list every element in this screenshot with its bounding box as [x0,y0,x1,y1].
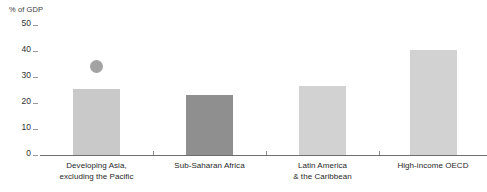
x-axis-category-label-line: excluding the Pacific [40,172,153,183]
x-axis-baseline [40,155,487,156]
category-divider [153,151,154,155]
y-axis-tick-mark [33,155,38,156]
data-point-marker [90,60,103,73]
bar [186,95,233,155]
bar [73,89,120,155]
y-axis-tick: 10 [0,122,40,132]
x-axis-category-label: High-income OECD [379,161,487,172]
x-axis-category-label-line: High-income OECD [379,161,487,172]
y-axis-tick: 0 [0,148,40,158]
y-axis-tick-mark [33,77,38,78]
x-axis-category-label: Developing Asia,excluding the Pacific [40,161,153,182]
bar [410,50,457,155]
x-axis-category-label-line: & the Caribbean [266,172,379,183]
y-axis-tick-label: 40 [22,44,31,54]
x-axis-category-label-line: Sub-Saharan Africa [153,161,266,172]
y-axis-tick-label: 50 [22,18,31,28]
y-axis-tick: 50 [0,18,40,28]
y-axis-tick-mark [33,25,38,26]
x-axis-category-label-line: Latin America [266,161,379,172]
x-axis-category-label-line: Developing Asia, [40,161,153,172]
y-axis-tick-label: 20 [22,96,31,106]
y-axis-tick-label: 30 [22,70,31,80]
bar-chart: % of GDP 50403020100 Developing Asia,exc… [0,0,487,192]
y-axis-tick: 20 [0,96,40,106]
category-divider [266,151,267,155]
y-axis-unit-label: % of GDP [9,5,43,14]
y-axis-tick-mark [33,103,38,104]
y-axis-tick-mark [33,129,38,130]
y-axis-tick-label: 0 [26,148,31,158]
category-divider [379,151,380,155]
x-axis-category-label: Sub-Saharan Africa [153,161,266,172]
x-axis-category-label: Latin America& the Caribbean [266,161,379,182]
y-axis-tick: 30 [0,70,40,80]
y-axis-tick-mark [33,51,38,52]
y-axis-tick: 40 [0,44,40,54]
y-axis-tick-label: 10 [22,122,31,132]
bar [299,86,346,155]
